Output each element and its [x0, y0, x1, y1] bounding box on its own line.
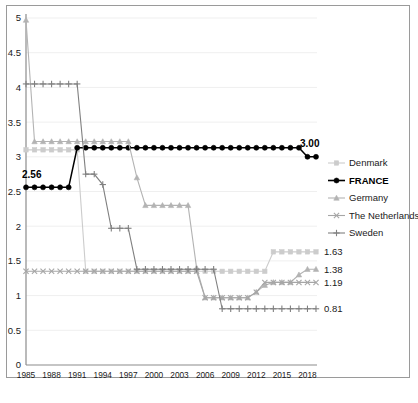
data-point-marker: [83, 145, 88, 150]
legend-item-germany[interactable]: Germany: [328, 192, 388, 203]
data-point-marker: [288, 250, 292, 254]
data-point-marker: [41, 185, 46, 190]
data-point-marker: [151, 145, 156, 150]
data-series-group: [23, 17, 319, 312]
x-tick-label: 2003: [170, 370, 189, 380]
data-point-marker: [254, 145, 259, 150]
data-point-marker: [245, 306, 251, 312]
data-point-marker: [66, 185, 71, 190]
data-point-marker: [75, 145, 80, 150]
y-tick-label: 1.5: [8, 255, 21, 266]
data-point-marker: [32, 148, 36, 152]
data-point-marker: [48, 81, 54, 87]
data-point-marker: [58, 185, 63, 190]
chart-figure: 00.511.522.533.544.55 198519881991199419…: [0, 0, 418, 403]
y-tick-label: 4.5: [8, 47, 21, 58]
data-point-marker: [134, 145, 139, 150]
data-point-marker: [313, 306, 319, 312]
data-point-marker: [334, 178, 339, 183]
data-point-marker: [296, 272, 301, 277]
data-point-marker: [177, 145, 182, 150]
data-point-marker: [194, 145, 199, 150]
data-point-marker: [143, 145, 148, 150]
data-point-marker: [287, 306, 293, 312]
data-point-marker: [220, 145, 225, 150]
data-point-marker: [305, 154, 310, 159]
data-point-marker: [314, 154, 319, 159]
x-tick-label: 2009: [221, 370, 240, 380]
data-point-marker: [92, 145, 97, 150]
x-tick-label: 2006: [196, 370, 215, 380]
data-point-marker: [314, 250, 318, 254]
data-point-marker: [288, 145, 293, 150]
data-point-marker: [40, 81, 46, 87]
data-point-marker: [169, 145, 174, 150]
data-point-marker: [271, 145, 276, 150]
end-value-label-the-netherlands: 1.19: [324, 277, 343, 288]
data-point-marker: [74, 81, 80, 87]
data-point-marker: [296, 306, 302, 312]
data-point-marker: [262, 145, 267, 150]
legend-item-the-netherlands[interactable]: The Netherlands: [328, 210, 418, 221]
chart-canvas: 00.511.522.533.544.55 198519881991199419…: [0, 0, 418, 403]
x-tick-label: 1985: [17, 370, 36, 380]
legend-label: FRANCE: [349, 175, 389, 186]
legend-item-denmark[interactable]: Denmark: [328, 157, 388, 168]
x-tick-label: 2015: [273, 370, 292, 380]
data-point-marker: [203, 145, 208, 150]
series-denmark: [24, 148, 318, 274]
legend-label: Germany: [349, 192, 388, 203]
data-point-marker: [23, 81, 29, 87]
data-point-marker: [254, 269, 258, 273]
legend-item-sweden[interactable]: Sweden: [328, 227, 383, 238]
data-point-marker: [246, 269, 250, 273]
data-point-marker: [262, 306, 268, 312]
data-point-marker: [237, 269, 241, 273]
data-point-marker: [270, 306, 276, 312]
data-point-marker: [83, 171, 89, 177]
legend-label: Denmark: [349, 157, 388, 168]
data-point-marker: [245, 145, 250, 150]
end-value-label-france: 3.00: [300, 138, 320, 149]
y-axis-tick-labels: 00.511.522.533.544.55: [8, 12, 21, 370]
data-point-marker: [220, 269, 224, 273]
legend-label: The Netherlands: [349, 210, 418, 221]
data-point-marker: [297, 250, 301, 254]
data-point-marker: [134, 175, 139, 180]
x-tick-label: 2000: [145, 370, 164, 380]
x-axis-tick-labels: 1985198819911994199720002003200620092012…: [17, 370, 317, 380]
y-tick-label: 2: [16, 221, 21, 232]
data-point-marker: [41, 148, 45, 152]
y-tick-label: 0.5: [8, 325, 21, 336]
data-point-marker: [66, 148, 70, 152]
y-tick-label: 3: [16, 151, 21, 162]
series-germany: [23, 17, 318, 300]
data-point-marker: [228, 145, 233, 150]
data-point-marker: [117, 145, 122, 150]
x-tick-label: 1991: [68, 370, 87, 380]
data-point-marker: [228, 306, 234, 312]
data-point-marker: [49, 148, 53, 152]
data-point-marker: [237, 145, 242, 150]
data-point-marker: [109, 145, 114, 150]
data-point-marker: [279, 145, 284, 150]
x-tick-label: 1997: [119, 370, 138, 380]
data-point-marker: [24, 148, 28, 152]
data-point-marker: [219, 306, 225, 312]
y-tick-label: 3.5: [8, 117, 21, 128]
legend-label: Sweden: [349, 227, 383, 238]
y-tick-label: 1: [16, 290, 21, 301]
data-point-marker: [304, 306, 310, 312]
data-point-marker: [236, 306, 242, 312]
legend-item-france[interactable]: FRANCE: [328, 175, 389, 186]
x-tick-label: 2018: [298, 370, 317, 380]
end-value-label-denmark: 1.63: [324, 246, 343, 257]
data-point-marker: [100, 145, 105, 150]
x-tick-label: 1988: [42, 370, 61, 380]
data-point-marker: [160, 145, 165, 150]
data-point-marker: [31, 81, 37, 87]
data-point-marker: [305, 250, 309, 254]
data-point-marker: [49, 185, 54, 190]
legend: DenmarkFRANCEGermanyThe NetherlandsSwede…: [328, 157, 418, 238]
data-point-marker: [271, 250, 275, 254]
